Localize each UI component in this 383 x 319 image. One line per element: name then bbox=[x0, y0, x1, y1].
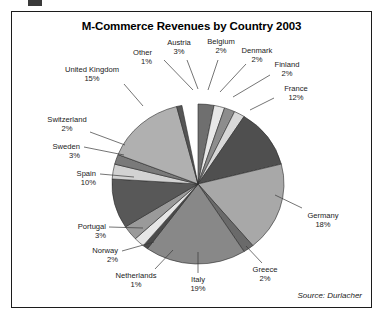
slice-label-austria: Austria 3% bbox=[157, 38, 201, 56]
slice-label-spain: Spain 10% bbox=[50, 169, 96, 187]
pie-slice-group bbox=[112, 104, 284, 264]
leader-line-greece bbox=[246, 246, 262, 263]
slice-label-norway: Norway 2% bbox=[70, 246, 118, 264]
leader-line-uk bbox=[124, 84, 143, 106]
scan-artifact bbox=[28, 0, 42, 6]
slice-label-other: Other 1% bbox=[104, 48, 152, 66]
slice-label-switzerland: Switzerland 2% bbox=[38, 115, 96, 133]
slice-label-netherlands: Netherlands 1% bbox=[105, 271, 167, 289]
chart-frame: M-Commerce Revenues by Country 2003 Othe… bbox=[11, 11, 372, 308]
source-note: Source: Durlacher bbox=[298, 291, 362, 300]
leader-line-denmark bbox=[220, 64, 246, 92]
slice-label-sweden: Sweden 3% bbox=[32, 142, 80, 160]
slice-label-portugal: Portugal 3% bbox=[54, 222, 106, 240]
slice-label-italy: Italy 19% bbox=[179, 275, 217, 293]
leader-line-switzerland bbox=[90, 132, 125, 145]
slice-label-france: France 12% bbox=[275, 84, 317, 102]
slice-label-united-kingdom: United Kingdom 15% bbox=[54, 65, 130, 83]
leader-line-france bbox=[250, 98, 274, 110]
leader-line-austria bbox=[187, 60, 198, 89]
slice-label-finland: Finland 2% bbox=[265, 60, 309, 78]
leader-line-belgium bbox=[208, 60, 218, 90]
leader-line-sweden bbox=[84, 147, 124, 155]
slice-label-germany: Germany 18% bbox=[298, 211, 348, 229]
slice-label-greece: Greece 2% bbox=[244, 265, 286, 283]
